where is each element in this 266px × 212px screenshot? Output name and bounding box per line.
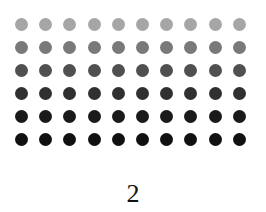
dot-row	[15, 105, 255, 128]
dot-icon	[184, 87, 197, 100]
dot-icon	[63, 18, 76, 31]
dot-icon	[63, 133, 76, 146]
dot-icon	[233, 87, 246, 100]
dot-row	[15, 128, 255, 151]
dot-icon	[136, 133, 149, 146]
dot-icon	[15, 41, 28, 54]
dot-icon	[184, 41, 197, 54]
dot-icon	[184, 133, 197, 146]
dot-icon	[88, 64, 101, 77]
dot-icon	[209, 41, 222, 54]
dot-icon	[209, 64, 222, 77]
dot-icon	[233, 64, 246, 77]
dot-icon	[112, 41, 125, 54]
dot-icon	[136, 87, 149, 100]
dot-icon	[233, 133, 246, 146]
dot-icon	[160, 18, 173, 31]
dot-icon	[15, 18, 28, 31]
dot-icon	[39, 41, 52, 54]
dot-icon	[209, 110, 222, 123]
dot-icon	[39, 110, 52, 123]
dot-icon	[209, 87, 222, 100]
dot-icon	[184, 18, 197, 31]
dot-icon	[136, 41, 149, 54]
dot-icon	[160, 41, 173, 54]
dot-icon	[136, 110, 149, 123]
dot-icon	[112, 18, 125, 31]
dot-row	[15, 36, 255, 59]
dot-icon	[209, 133, 222, 146]
dot-icon	[39, 64, 52, 77]
dot-icon	[63, 110, 76, 123]
dot-icon	[209, 18, 222, 31]
dot-icon	[15, 110, 28, 123]
dot-icon	[112, 110, 125, 123]
dot-icon	[63, 41, 76, 54]
dot-icon	[184, 110, 197, 123]
dot-row	[15, 59, 255, 82]
number-label: 2	[0, 180, 266, 208]
dot-icon	[160, 133, 173, 146]
dot-icon	[39, 18, 52, 31]
dot-icon	[39, 87, 52, 100]
dot-icon	[15, 133, 28, 146]
dot-icon	[88, 87, 101, 100]
dot-icon	[88, 110, 101, 123]
dot-icon	[184, 64, 197, 77]
dot-icon	[15, 87, 28, 100]
dot-icon	[160, 110, 173, 123]
dot-icon	[88, 133, 101, 146]
dot-icon	[112, 64, 125, 77]
dot-icon	[15, 64, 28, 77]
dot-icon	[39, 133, 52, 146]
dot-icon	[233, 110, 246, 123]
dot-icon	[88, 18, 101, 31]
dot-icon	[112, 87, 125, 100]
dot-row	[15, 13, 255, 36]
dot-icon	[112, 133, 125, 146]
dot-icon	[233, 18, 246, 31]
dot-icon	[160, 64, 173, 77]
dot-row	[15, 82, 255, 105]
dot-icon	[160, 87, 173, 100]
dot-icon	[63, 64, 76, 77]
dot-icon	[233, 41, 246, 54]
dot-icon	[136, 18, 149, 31]
dot-icon	[63, 87, 76, 100]
dot-icon	[136, 64, 149, 77]
dot-icon	[88, 41, 101, 54]
dot-grid	[15, 13, 255, 151]
